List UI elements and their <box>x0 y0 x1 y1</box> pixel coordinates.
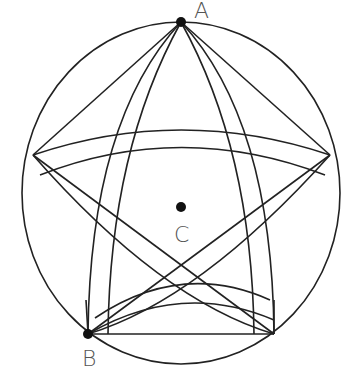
chord-right-B <box>88 155 330 334</box>
arc-bottom-1 <box>88 303 274 334</box>
point-B <box>83 329 93 339</box>
outer-circle <box>22 22 340 364</box>
point-A <box>176 17 186 27</box>
arc-A-B-inner <box>108 22 181 334</box>
vertical-left <box>86 300 88 334</box>
label-B: B <box>82 346 96 371</box>
geometry-diagram: A B C <box>0 0 360 391</box>
point-C <box>176 202 186 212</box>
label-C: C <box>174 222 189 247</box>
arc-left-right-low <box>40 148 325 176</box>
arc-bottom-2 <box>95 284 270 318</box>
arc-left-right-top <box>33 130 330 155</box>
label-A: A <box>194 0 209 23</box>
arc-A-BR-inner <box>181 22 254 334</box>
